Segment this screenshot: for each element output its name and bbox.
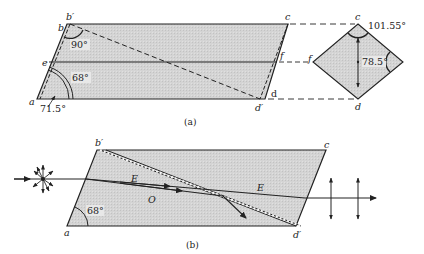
angle-101-label: 101.55° [368, 20, 406, 31]
label-d-prime: d′ [255, 102, 264, 113]
label-b-prime: b′ [66, 11, 75, 22]
label-a-b: a [64, 227, 70, 238]
label-b: b [58, 22, 64, 33]
label-e: e [42, 57, 48, 68]
cross-section: c f d 101.55° 78.5° [307, 11, 406, 112]
angle-90-label: 90° [71, 39, 88, 50]
label-f: f [279, 50, 285, 61]
angle-68-label: 68° [72, 72, 89, 83]
e-ray-label: E [130, 173, 138, 184]
angle-78-label: 78.5° [362, 56, 388, 67]
label-b-prime-b: b′ [95, 137, 104, 148]
caption-b: (b) [186, 240, 199, 250]
prism-b-body [67, 150, 326, 226]
e-ray-label-exit: E [256, 182, 264, 193]
figure-b: a b′ c d′ 68° E O E (b) [14, 137, 376, 250]
label-a: a [29, 96, 35, 107]
nicol-prism-diagram: a b b′ e c f d d′ 90° 68° 71.5° c f d 10… [0, 0, 424, 254]
section-label-f: f [307, 53, 313, 64]
label-c-b: c [324, 139, 330, 150]
caption-a: (a) [184, 117, 196, 127]
section-label-d: d [355, 101, 361, 112]
center-dot [357, 61, 359, 63]
o-ray-label: O [148, 194, 156, 205]
label-c: c [285, 11, 291, 22]
angle-71-label: 71.5° [40, 103, 66, 114]
label-d-prime-b: d′ [293, 229, 302, 240]
section-label-c: c [355, 11, 361, 22]
figure-a: a b b′ e c f d d′ 90° 68° 71.5° c f d 10… [29, 11, 406, 127]
angle-68-label-b: 68° [87, 205, 104, 216]
label-d: d [271, 88, 277, 99]
